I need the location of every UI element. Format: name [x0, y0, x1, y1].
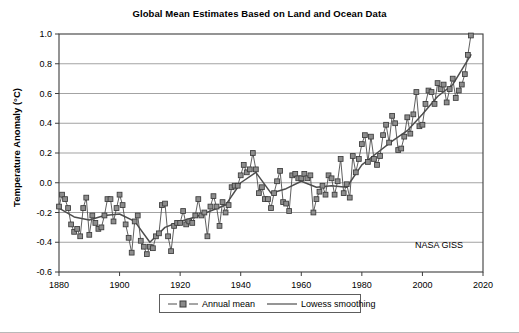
svg-text:0.4: 0.4	[39, 118, 52, 128]
svg-text:1940: 1940	[231, 280, 251, 290]
svg-text:0.2: 0.2	[39, 148, 52, 158]
svg-text:-0.6: -0.6	[36, 267, 52, 277]
svg-text:2000: 2000	[412, 280, 432, 290]
svg-text:0.6: 0.6	[39, 89, 52, 99]
lowess-smoothing-symbol-icon	[267, 299, 297, 309]
chart-figure: Global Mean Estimates Based on Land and …	[0, 0, 519, 333]
svg-text:1960: 1960	[291, 280, 311, 290]
svg-text:1980: 1980	[352, 280, 372, 290]
annual-mean-markers	[57, 33, 474, 256]
legend-item-annual-mean: Annual mean	[168, 299, 255, 309]
svg-text:-0.2: -0.2	[36, 208, 52, 218]
y-axis-ticks: -0.6-0.4-0.20.00.20.40.60.81.0	[36, 29, 59, 277]
plot-area: -0.6-0.4-0.20.00.20.40.60.81.0 188019001…	[0, 0, 519, 333]
annual-mean-symbol-icon	[168, 299, 198, 309]
legend-item-lowess-smoothing: Lowess smoothing	[267, 299, 376, 309]
svg-text:-0.4: -0.4	[36, 237, 52, 247]
svg-text:2020: 2020	[473, 280, 493, 290]
series-lowess-smoothing	[59, 55, 471, 242]
source-annotation: NASA GISS	[415, 240, 463, 250]
svg-text:1.0: 1.0	[39, 29, 52, 39]
svg-text:1920: 1920	[170, 280, 190, 290]
legend-label-lowess-smoothing: Lowess smoothing	[301, 299, 376, 309]
svg-text:0.8: 0.8	[39, 59, 52, 69]
svg-text:1880: 1880	[49, 280, 69, 290]
legend-label-annual-mean: Annual mean	[202, 299, 255, 309]
svg-text:1900: 1900	[110, 280, 130, 290]
series-annual-mean	[59, 35, 471, 254]
chart-legend: Annual mean Lowess smoothing	[159, 294, 361, 313]
x-axis-ticks: 18801900192019401960198020002020	[49, 272, 493, 290]
svg-text:0.0: 0.0	[39, 178, 52, 188]
